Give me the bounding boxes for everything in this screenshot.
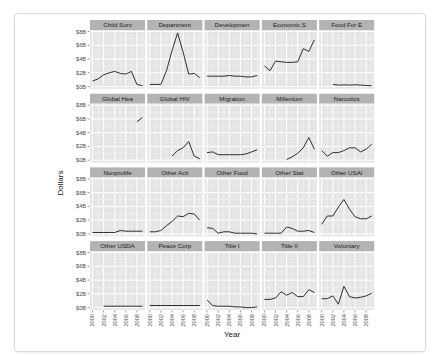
facet-panel: Food For E: [319, 20, 374, 89]
x-tick-label: 2006: [352, 314, 358, 326]
x-tick-label: 2004: [169, 314, 175, 326]
x-tick-label: 2008: [306, 314, 312, 326]
x-tick-label: 2002: [158, 314, 164, 326]
facet-title: Department: [159, 21, 192, 28]
facet-panel: Global Hea$0B$2B$4B$6B$8B: [76, 94, 145, 164]
y-tick-label: $0B: [76, 231, 86, 237]
facet-title: Migration: [219, 95, 245, 102]
facet-panel: Voluntary20002002200420062008: [319, 241, 375, 326]
facet-panel: Other Acti: [147, 167, 202, 236]
x-tick-label: 2006: [295, 314, 301, 326]
facet-title: Title II: [281, 242, 298, 249]
y-tick-label: $6B: [76, 42, 86, 48]
x-tick-label: 2008: [249, 314, 255, 326]
facet-title: Other Stat: [275, 169, 303, 176]
x-tick-label: 2000: [90, 314, 96, 326]
x-tick-label: 2002: [330, 314, 336, 326]
facet-panel: Millenium: [262, 94, 317, 163]
x-tick-label: 2006: [123, 314, 129, 326]
y-tick-label: $2B: [76, 217, 86, 223]
facet-panel: Other USDA$0B$2B$4B$6B$8B200020022004200…: [76, 241, 145, 326]
y-tick-label: $8B: [76, 29, 86, 35]
x-tick-label: 2002: [273, 314, 279, 326]
x-tick-label: 2000: [147, 314, 153, 326]
facet-title: Voluntary: [334, 242, 361, 249]
y-tick-label: $0B: [76, 305, 86, 311]
x-tick-label: 2004: [226, 314, 232, 326]
facet-title: Other Food: [216, 169, 248, 176]
x-tick-label: 2008: [363, 314, 369, 326]
facet-panel: Developmen: [205, 20, 260, 89]
x-tick-label: 2000: [319, 314, 325, 326]
facet-title: Child Surv: [103, 21, 132, 28]
facet-title: Title I: [225, 242, 240, 249]
y-tick-label: $4B: [76, 130, 86, 136]
facet-title: Developmen: [215, 21, 250, 28]
y-tick-label: $6B: [76, 263, 86, 269]
facet-title: Other USAI: [331, 169, 363, 176]
facet-panel: Other USAI: [319, 167, 374, 236]
y-tick-label: $0B: [76, 157, 86, 163]
x-tick-label: 2000: [204, 314, 210, 326]
facet-panel: Economic S: [262, 20, 317, 89]
facet-panel: Narcotics: [319, 94, 374, 163]
facet-title: Millenium: [276, 95, 302, 102]
y-tick-label: $4B: [76, 56, 86, 62]
facet-panel: Migration: [205, 94, 260, 163]
facet-panel: Child Surv$0B$2B$4B$6B$8B: [76, 20, 145, 90]
x-tick-label: 2004: [284, 314, 290, 326]
facet-panel: Global HIV: [147, 94, 202, 163]
facet-title: Narcotics: [334, 95, 360, 102]
x-axis-title: Year: [224, 330, 241, 339]
y-tick-label: $4B: [76, 277, 86, 283]
y-tick-label: $6B: [76, 116, 86, 122]
facet-panel: Nonprolife$0B$2B$4B$6B$8B: [76, 167, 145, 237]
x-tick-label: 2006: [237, 314, 243, 326]
x-tick-label: 2002: [101, 314, 107, 326]
facet-title: Other Acti: [161, 169, 188, 176]
x-tick-label: 2008: [134, 314, 140, 326]
facet-panel: Department: [147, 20, 202, 89]
y-tick-label: $8B: [76, 102, 86, 108]
x-tick-label: 2006: [180, 314, 186, 326]
facet-title: Nonprolife: [103, 169, 132, 176]
y-tick-label: $8B: [76, 176, 86, 182]
x-tick-label: 2000: [261, 314, 267, 326]
facet-title: Global Hea: [102, 95, 134, 102]
x-tick-label: 2004: [341, 314, 347, 326]
facet-panel: Other Food: [205, 167, 260, 236]
facet-title: Food For E: [331, 21, 362, 28]
x-tick-label: 2002: [215, 314, 221, 326]
y-tick-label: $4B: [76, 203, 86, 209]
facet-title: Other USDA: [100, 242, 135, 249]
x-tick-label: 2008: [191, 314, 197, 326]
y-tick-label: $2B: [76, 143, 86, 149]
facet-title: Global HIV: [160, 95, 191, 102]
y-axis-title: Dollars: [56, 171, 65, 196]
y-tick-label: $0B: [76, 84, 86, 90]
facet-panel: Title I20002002200420062008: [204, 241, 260, 326]
y-tick-label: $8B: [76, 250, 86, 256]
facet-title: Economic S: [273, 21, 306, 28]
faceted-line-chart: Child Surv$0B$2B$4B$6B$8BDepartmentDevel…: [0, 0, 434, 355]
facet-panel: Title II20002002200420062008: [261, 241, 317, 326]
y-tick-label: $2B: [76, 291, 86, 297]
facet-title: Peace Corp: [158, 242, 191, 249]
x-tick-label: 2004: [112, 314, 118, 326]
y-tick-label: $6B: [76, 190, 86, 196]
facet-panel: Other Stat: [262, 167, 317, 236]
y-tick-label: $2B: [76, 70, 86, 76]
facet-panel: Peace Corp20002002200420062008: [147, 241, 203, 326]
